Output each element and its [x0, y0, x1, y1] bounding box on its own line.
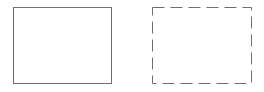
solid-rectangle [14, 8, 112, 84]
dashed-rectangle [153, 8, 252, 84]
diagram-canvas [0, 0, 264, 92]
